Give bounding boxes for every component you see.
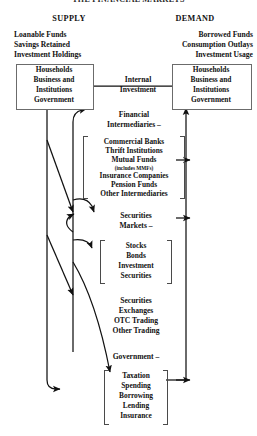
- channel-securities-markets-label-1: Securities: [95, 212, 177, 221]
- channel-securities-exchanges-label-3: OTC Trading: [95, 317, 177, 326]
- supply-sector-line-2: Business and: [16, 76, 92, 85]
- arrow-outer-to-inner-upper: [47, 140, 73, 212]
- sm-item-4: Securities: [100, 272, 172, 281]
- diagram-title-text: THE FINANCIAL MARKETS: [0, 0, 257, 4]
- demand-heading: DEMAND: [139, 14, 251, 24]
- sm-item-1: Stocks: [100, 242, 172, 251]
- gov-item-2: Spending: [104, 382, 168, 391]
- internal-investment-line-2: Investment: [98, 86, 178, 95]
- fi-item-6: Other Intermediaries: [83, 190, 185, 199]
- supply-line-3: Investment Holdings: [6, 51, 139, 60]
- curve-to-securities-markets: [73, 199, 94, 212]
- curve-to-securities-detail: [73, 240, 92, 248]
- gov-item-1: Taxation: [104, 372, 168, 381]
- supply-sector-line-3: Institutions: [16, 86, 92, 95]
- sm-item-3: Investment: [100, 262, 172, 271]
- demand-sector-line-2: Business and: [172, 76, 250, 85]
- supply-sector-line-4: Government: [16, 96, 92, 105]
- demand-sector-line-3: Institutions: [172, 86, 250, 95]
- supply-line-1: Loanable Funds: [6, 31, 139, 40]
- arrow-to-government: [47, 380, 60, 389]
- channel-securities-exchanges-label-1: Securities: [95, 297, 177, 306]
- demand-line-1: Borrowed Funds: [131, 31, 257, 40]
- supply-line-2: Savings Retained: [6, 41, 139, 50]
- channel-securities-exchanges-label-2: Exchanges: [95, 307, 177, 316]
- internal-investment-line-1: Internal: [98, 76, 178, 85]
- demand-line-2: Consumption Outlays: [131, 41, 257, 50]
- channel-securities-markets-label-2: Markets –: [95, 222, 177, 231]
- channel-financial-intermediaries-label-1: Financial: [83, 111, 185, 120]
- gov-item-4: Lending: [104, 402, 168, 411]
- channel-financial-intermediaries-label-2: Intermediaries –: [83, 121, 185, 130]
- supply-heading: SUPPLY: [14, 14, 124, 24]
- sm-item-2: Bonds: [100, 252, 172, 261]
- channel-government-label: Government –: [95, 353, 177, 362]
- supply-sector-line-1: Households: [16, 66, 92, 75]
- fi-item-3: Mutual Funds: [83, 156, 185, 165]
- channel-securities-exchanges-label-4: Other Trading: [95, 327, 177, 336]
- financial-markets-diagram: THE FINANCIAL MARKETS: [0, 0, 257, 436]
- arrow-outer-to-inner-lower: [47, 235, 73, 295]
- demand-sector-line-4: Government: [172, 96, 250, 105]
- diagram-title-clipped: THE FINANCIAL MARKETS: [0, 0, 257, 5]
- gov-item-5: Insurance: [104, 412, 168, 421]
- demand-line-3: Investment Usage: [131, 51, 257, 60]
- gov-item-3: Borrowing: [104, 392, 168, 401]
- curve-hook-securities: [67, 214, 74, 232]
- demand-sector-line-1: Households: [172, 66, 250, 75]
